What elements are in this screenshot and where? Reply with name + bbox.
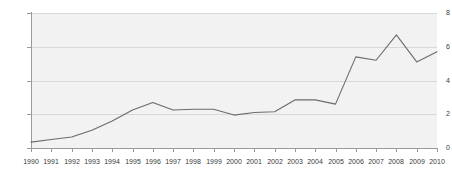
- series-polyline: [31, 35, 437, 142]
